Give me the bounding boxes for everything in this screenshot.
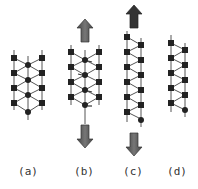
- panel-d-label: (d): [167, 165, 187, 178]
- panel-c-down-arrow-icon: [126, 133, 142, 156]
- panel-b-down-arrow-icon: [77, 125, 93, 148]
- panel-b-up-arrow-icon: [77, 19, 93, 42]
- panel-a-label: (a): [18, 165, 38, 178]
- panel-c-label: (c): [123, 165, 143, 178]
- panel-b-label: (b): [74, 165, 94, 178]
- panel-c-up-arrow-icon: [126, 5, 142, 28]
- diagram-canvas: (a) (b) (c) (d): [0, 0, 198, 189]
- panel-b-structure: [71, 45, 99, 124]
